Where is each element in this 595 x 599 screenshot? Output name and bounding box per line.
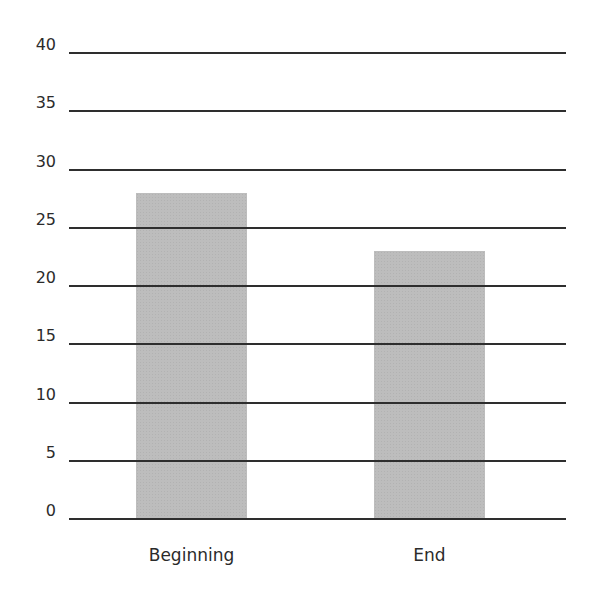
y-tick-label: 35 — [16, 94, 56, 112]
gridline — [69, 518, 566, 520]
gridline — [69, 343, 566, 345]
x-tick-label: Beginning — [112, 545, 272, 565]
y-tick-label: 20 — [16, 269, 56, 287]
y-tick-label: 15 — [16, 327, 56, 345]
bar-beginning — [136, 193, 247, 519]
bar-chart: 0510152025303540 BeginningEnd — [0, 0, 595, 599]
y-tick-label: 5 — [16, 444, 56, 462]
y-tick-label: 25 — [16, 211, 56, 229]
y-tick-label: 10 — [16, 386, 56, 404]
gridline — [69, 402, 566, 404]
gridline — [69, 110, 566, 112]
y-tick-label: 40 — [16, 36, 56, 54]
gridline — [69, 460, 566, 462]
y-tick-label: 0 — [16, 502, 56, 520]
gridline — [69, 285, 566, 287]
x-tick-label: End — [350, 545, 510, 565]
bar-end — [374, 251, 485, 519]
y-tick-label: 30 — [16, 153, 56, 171]
gridline — [69, 169, 566, 171]
gridline — [69, 52, 566, 54]
gridline — [69, 227, 566, 229]
